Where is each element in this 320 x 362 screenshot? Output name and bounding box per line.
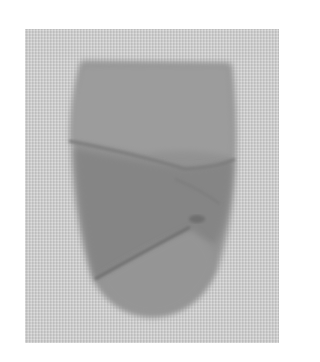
photograph: [25, 29, 279, 343]
folded-object: [25, 29, 279, 343]
